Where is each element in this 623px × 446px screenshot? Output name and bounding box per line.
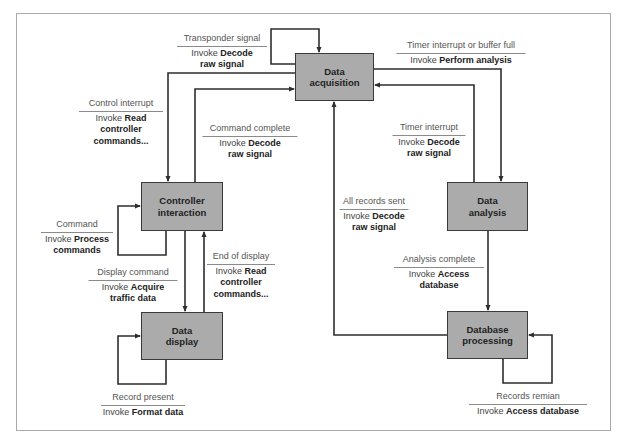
label-all-records-sent: All records sent Invoke Decoderaw signal — [340, 196, 409, 234]
condition-text: Command complete — [203, 123, 298, 137]
state-label-line1: Data — [309, 66, 359, 78]
state-label-line2: display — [166, 336, 199, 348]
action-text: Invoke Format data — [101, 406, 185, 419]
action-text: Invoke Acquiretraffic data — [89, 281, 178, 305]
condition-text: All records sent — [340, 196, 409, 210]
action-text: Invoke Readcontrollercommands... — [207, 265, 275, 301]
condition-text: Control interrupt — [79, 98, 163, 112]
label-analysis-complete: Analysis complete Invoke Accessdatabase — [394, 254, 484, 292]
condition-text: Command — [41, 219, 113, 233]
action-text: Invoke Processcommands — [41, 233, 113, 257]
action-text: Invoke Access database — [469, 405, 587, 418]
action-text: Invoke Decoderaw signal — [340, 210, 409, 234]
condition-text: Timer interrupt — [393, 122, 466, 136]
state-data-display[interactable]: Datadisplay — [141, 312, 223, 360]
condition-text: Transponder signal — [177, 33, 267, 47]
label-command-complete: Command complete Invoke Decoderaw signal — [203, 123, 298, 161]
state-label-line2: acquisition — [309, 77, 359, 89]
label-timer-buffer: Timer interrupt or buffer full Invoke Pe… — [397, 40, 526, 66]
state-label-line2: analysis — [469, 207, 507, 219]
label-records-remain: Records remian Invoke Access database — [469, 391, 587, 417]
state-database-processing[interactable]: Databaseprocessing — [447, 311, 528, 359]
state-label-line2: interaction — [158, 207, 207, 219]
label-record-present: Record present Invoke Format data — [101, 392, 185, 418]
state-controller-interaction[interactable]: Controllerinteraction — [141, 182, 223, 231]
condition-text: Timer interrupt or buffer full — [397, 40, 526, 54]
state-label-line1: Database — [462, 324, 513, 336]
state-label-line1: Data — [469, 195, 507, 207]
state-label-line1: Data — [166, 325, 199, 337]
condition-text: Record present — [101, 392, 185, 406]
label-end-of-display: End of display Invoke Readcontrollercomm… — [207, 251, 275, 300]
state-data-analysis[interactable]: Dataanalysis — [447, 182, 528, 231]
condition-text: End of display — [207, 251, 275, 265]
state-data-acquisition[interactable]: Dataacquisition — [295, 53, 374, 101]
state-label-line2: processing — [462, 335, 513, 347]
label-command: Command Invoke Processcommands — [41, 219, 113, 257]
label-transponder: Transponder signal Invoke Decoderaw sign… — [177, 33, 267, 71]
condition-text: Display command — [89, 267, 178, 281]
action-text: Invoke Accessdatabase — [394, 268, 484, 292]
condition-text: Analysis complete — [394, 254, 484, 268]
action-text: Invoke Perform analysis — [397, 54, 526, 67]
label-display-command: Display command Invoke Acquiretraffic da… — [89, 267, 178, 305]
condition-text: Records remian — [469, 391, 587, 405]
label-timer-interrupt: Timer interrupt Invoke Decoderaw signal — [393, 122, 466, 160]
label-control-interrupt: Control interrupt Invoke Readcontrollerc… — [79, 98, 163, 147]
action-text: Invoke Readcontrollercommands... — [79, 112, 163, 148]
state-label-line1: Controller — [158, 195, 207, 207]
action-text: Invoke Decoderaw signal — [177, 47, 267, 71]
action-text: Invoke Decoderaw signal — [203, 137, 298, 161]
action-text: Invoke Decoderaw signal — [393, 136, 466, 160]
